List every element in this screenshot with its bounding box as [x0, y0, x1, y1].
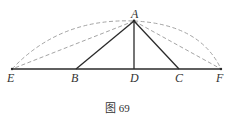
label-e: E: [6, 71, 15, 85]
point-f-dot: [220, 68, 222, 70]
label-f: F: [215, 71, 224, 85]
segment-ac: [134, 21, 179, 69]
label-a: A: [130, 7, 139, 21]
geometry-figure: A E B D C F 图 69: [0, 0, 236, 124]
figure-caption: 图 69: [105, 102, 130, 114]
label-d: D: [129, 71, 139, 85]
segment-ae: [12, 21, 134, 69]
label-b: B: [71, 71, 79, 85]
point-e-dot: [11, 68, 13, 70]
label-c: C: [175, 71, 184, 85]
segment-af: [134, 21, 221, 69]
segment-ab: [76, 21, 134, 69]
